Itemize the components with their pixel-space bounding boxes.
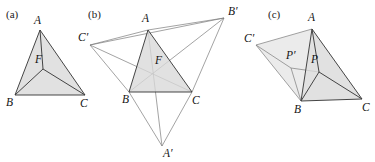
panel-b-label-B: B xyxy=(122,93,129,105)
panel-b-seg-cp-b xyxy=(90,45,129,92)
panel-c-label-P-prime: P′ xyxy=(285,49,296,61)
panel-b-seg-bp-c xyxy=(192,18,224,92)
panel-c-label-B: B xyxy=(294,103,301,115)
panel-b-tag: (b) xyxy=(88,8,101,21)
panel-b-seg-ap-b xyxy=(129,92,162,146)
panel-b-label-A: A xyxy=(141,12,150,24)
panel-a-tag: (a) xyxy=(6,8,19,21)
geometry-figure: (a) A B C F (b) A B C F xyxy=(0,0,375,162)
panel-c-tag: (c) xyxy=(268,8,281,21)
panel-b-seg-cp-bp xyxy=(90,18,224,45)
panel-c-label-A: A xyxy=(307,11,316,23)
panel-b-label-C-prime: C′ xyxy=(78,31,89,43)
panel-a-label-B: B xyxy=(6,96,13,108)
panel-b-seg-ap-c xyxy=(162,92,192,146)
panel-b-seg-cp-a xyxy=(90,30,148,45)
panel-b-seg-bp-a xyxy=(148,18,224,30)
panel-a: (a) A B C F xyxy=(6,8,88,109)
panel-a-label-F: F xyxy=(34,53,43,65)
panel-b-label-B-prime: B′ xyxy=(228,5,238,17)
panel-a-label-A: A xyxy=(33,14,42,26)
panel-c-label-C: C xyxy=(362,101,370,113)
panel-b: (b) A B C F A′ B′ C′ xyxy=(78,5,238,159)
panel-a-label-C: C xyxy=(80,97,88,109)
panel-c-label-C-prime: C′ xyxy=(244,32,255,44)
panel-c-label-P: P xyxy=(310,53,318,65)
panel-b-label-F: F xyxy=(154,54,163,66)
panel-c: (c) A B C P P′ C′ xyxy=(244,8,370,115)
figure-canvas: (a) A B C F (b) A B C F xyxy=(0,0,375,162)
panel-b-label-C: C xyxy=(192,94,200,106)
panel-b-label-A-prime: A′ xyxy=(162,147,173,159)
